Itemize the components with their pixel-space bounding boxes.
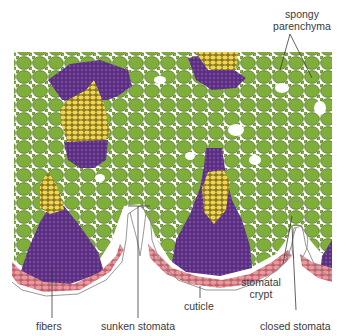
label-crypt: crypt — [238, 288, 284, 300]
stomatal-crypt-leader — [283, 216, 292, 264]
label-stomatal: stomatal — [238, 276, 284, 288]
label-spongy: spongy — [262, 8, 342, 20]
spongy-parenchyma-leader — [280, 34, 312, 78]
label-fibers: fibers — [36, 320, 62, 332]
label-spongy-parenchyma: spongy parenchyma — [262, 8, 342, 32]
label-sunken-stomata: sunken stomata — [101, 320, 175, 332]
closed-stomata-leader — [292, 226, 296, 310]
leader-lines — [0, 0, 347, 336]
label-cuticle: cuticle — [184, 300, 214, 312]
label-closed-stomata: closed stomata — [260, 320, 331, 332]
leaf-cross-section-diagram: spongy parenchyma fibers sunken stomata … — [0, 0, 347, 336]
label-parenchyma: parenchyma — [262, 20, 342, 32]
label-stomatal-crypt: stomatal crypt — [238, 276, 284, 300]
sunken-stomata-leader — [128, 206, 150, 318]
